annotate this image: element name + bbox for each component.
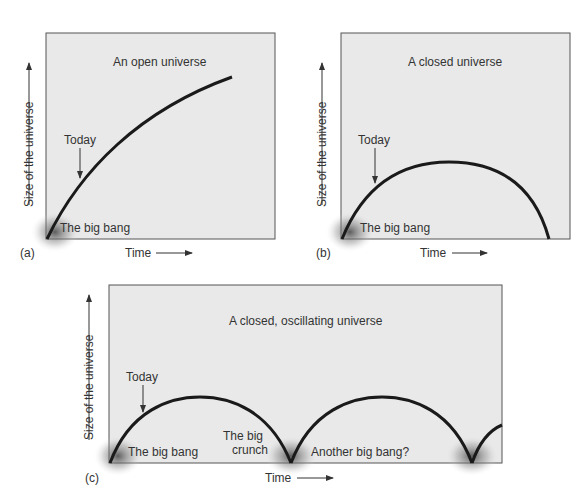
panel-a-start-label: The big bang bbox=[60, 221, 130, 235]
panel-c-crunch-label-2: crunch bbox=[232, 443, 268, 457]
panel-b-ylabel: Size of the universe bbox=[315, 102, 329, 207]
panel-a-today-label: Today bbox=[64, 133, 96, 147]
panel-c-title: A closed, oscillating universe bbox=[229, 314, 382, 328]
panel-a-xlabel: Time bbox=[125, 246, 151, 260]
panel-b-today-label: Today bbox=[358, 133, 390, 147]
panel-a-title: An open universe bbox=[113, 55, 206, 69]
panel-c-letter: (c) bbox=[85, 471, 99, 485]
panel-c-start-label: The big bang bbox=[128, 445, 198, 459]
panel-c-crunch-label-1: The big bbox=[223, 429, 263, 443]
big-crunch-glow bbox=[265, 436, 317, 476]
panel-b-letter: (b) bbox=[316, 246, 331, 260]
panel-c-today-label: Today bbox=[126, 370, 158, 384]
panel-a-ylabel: Size of the universe bbox=[22, 102, 36, 207]
panel-b-start-label: The big bang bbox=[360, 221, 430, 235]
panel-c-xlabel: Time bbox=[265, 471, 291, 485]
panel-a-letter: (a) bbox=[20, 246, 35, 260]
panel-c-another-label: Another big bang? bbox=[311, 445, 409, 459]
panel-b-title: A closed universe bbox=[408, 55, 502, 69]
panel-b-xlabel: Time bbox=[420, 246, 446, 260]
panel-c-ylabel: Size of the universe bbox=[82, 335, 96, 440]
another-bang-glow bbox=[446, 436, 498, 476]
